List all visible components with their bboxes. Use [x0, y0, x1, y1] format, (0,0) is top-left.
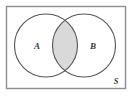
venn-diagram-figure: A B S: [0, 0, 133, 96]
label-set-b: B: [89, 41, 96, 51]
label-set-a: A: [33, 41, 40, 51]
venn-diagram-canvas: A B S: [0, 0, 133, 96]
label-universal-set-s: S: [114, 76, 119, 86]
